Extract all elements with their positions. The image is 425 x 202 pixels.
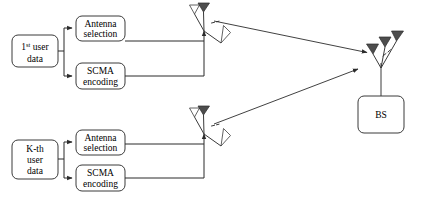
user-1-data-label-line2: data [27,54,44,64]
user-k-group: K-th user data Antenna selection SCMA en… [12,69,358,191]
antenna-selection-k-line2: selection [84,143,118,153]
user-1-data-label-line1: 1st user [21,41,49,52]
user-k-data-label-line2: user [27,155,44,165]
scma-encoding-1-line2: encoding [83,77,118,87]
bs-antenna-stem-left [373,54,381,68]
block-diagram-figure: 1st user data Antenna selection SCMA enc… [0,0,425,202]
uplink-user-k-to-bs-arrow [214,69,358,124]
user-k-antenna-stem-left [195,117,205,134]
antenna-outline-icon [221,129,231,147]
user-1-antenna-stem-left [195,14,205,31]
antenna-filled-icon [198,3,210,12]
antenna-selection-1-line2: selection [84,29,118,39]
uplink-user-1-to-bs-arrow [214,21,367,53]
user-k-antenna-stem-right [204,134,221,146]
user-k-data-label-line1: K-th [26,144,44,154]
antenna-filled-icon [367,44,379,54]
antenna-selection-1-line1: Antenna [84,19,117,29]
antenna-filled-icon [198,106,210,115]
base-station-group: BS [358,31,404,133]
antenna-outline-icon [190,5,200,14]
antenna-filled-icon [379,37,391,47]
user-1-group: 1st user data Antenna selection SCMA enc… [12,3,367,89]
scma-encoding-k-line2: encoding [83,179,118,189]
user-k-antenna-ellipsis [212,124,220,126]
antenna-outline-icon [190,108,200,117]
user-1-antenna-stem-mid [204,12,205,31]
base-station-label: BS [375,110,387,120]
antenna-filled-icon [392,31,404,41]
user-k-antenna-stem-mid [204,115,205,134]
user-1-antenna-stem-right [204,31,221,43]
scma-encoding-1-line1: SCMA [87,66,114,76]
user-k-antenna-array [190,106,231,146]
scma-encoding-k-line1: SCMA [87,168,114,178]
diagram-canvas: 1st user data Antenna selection SCMA enc… [0,0,425,202]
antenna-selection-k-line1: Antenna [84,133,117,143]
antenna-outline-icon [221,26,231,44]
user-k-data-label-line3: data [27,166,44,176]
